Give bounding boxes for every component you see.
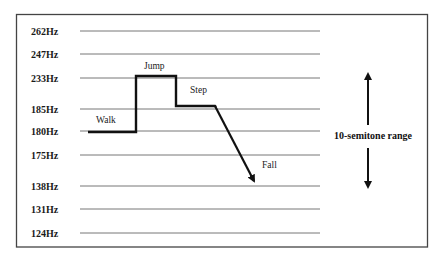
level-label: 185Hz bbox=[31, 104, 59, 115]
frequency-grid: 262Hz 247Hz 233Hz 185Hz 180Hz 175Hz 138H… bbox=[31, 26, 320, 239]
level-262: 262Hz bbox=[31, 26, 320, 37]
level-label: 175Hz bbox=[31, 150, 59, 161]
range-annotation: 10-semitone range bbox=[334, 130, 413, 141]
level-180: 180Hz bbox=[31, 126, 320, 137]
level-label: 262Hz bbox=[31, 26, 59, 37]
level-label: 233Hz bbox=[31, 73, 59, 84]
level-175: 175Hz bbox=[31, 150, 320, 161]
fall-arrow bbox=[215, 106, 254, 181]
level-label: 180Hz bbox=[31, 126, 59, 137]
pitch-contour-diagram: 262Hz 247Hz 233Hz 185Hz 180Hz 175Hz 138H… bbox=[0, 0, 442, 261]
level-label: 124Hz bbox=[31, 228, 59, 239]
segment-label-step: Step bbox=[190, 85, 207, 95]
level-label: 247Hz bbox=[31, 49, 59, 60]
level-label: 138Hz bbox=[31, 181, 59, 192]
level-247: 247Hz bbox=[31, 49, 320, 60]
level-label: 131Hz bbox=[31, 204, 59, 215]
segment-label-jump: Jump bbox=[144, 61, 165, 71]
segment-label-walk: Walk bbox=[96, 115, 116, 125]
level-138: 138Hz bbox=[31, 181, 320, 192]
level-131: 131Hz bbox=[31, 204, 320, 215]
segment-label-fall: Fall bbox=[262, 160, 277, 170]
level-124: 124Hz bbox=[31, 228, 320, 239]
